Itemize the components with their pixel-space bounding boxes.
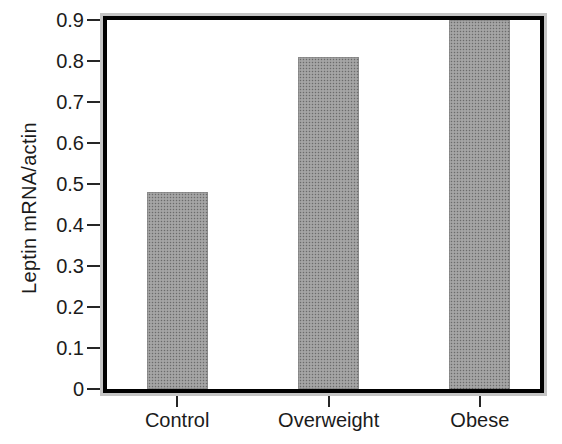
plot-area <box>107 20 540 389</box>
y-tick-label: 0.3 <box>38 256 84 276</box>
x-tick-mark <box>176 396 178 407</box>
y-tick-mark <box>87 60 100 62</box>
y-tick-label: 0.1 <box>38 338 84 358</box>
leptin-bar-chart: Leptin mRNA/actin 00.10.20.30.40.50.60.7… <box>0 0 562 444</box>
plot-frame <box>100 13 547 396</box>
y-tick-mark <box>87 347 100 349</box>
y-tick-label: 0.5 <box>38 174 84 194</box>
x-tick-mark <box>479 396 481 407</box>
y-tick-label: 0.9 <box>38 10 84 30</box>
y-tick-mark <box>87 183 100 185</box>
y-tick-mark <box>87 19 100 21</box>
bar-obese <box>449 20 510 389</box>
x-category-label: Control <box>145 410 209 430</box>
y-tick-label: 0.6 <box>38 133 84 153</box>
x-tick-mark <box>328 396 330 407</box>
plot-frame-inner <box>103 16 544 393</box>
y-tick-label: 0.7 <box>38 92 84 112</box>
bar-overweight <box>298 57 359 389</box>
x-category-label: Obese <box>450 410 509 430</box>
x-category-label: Overweight <box>278 410 379 430</box>
bar-control <box>147 192 208 389</box>
y-tick-mark <box>87 265 100 267</box>
y-tick-label: 0 <box>38 379 84 399</box>
y-tick-label: 0.8 <box>38 51 84 71</box>
y-tick-mark <box>87 101 100 103</box>
y-tick-mark <box>87 224 100 226</box>
y-tick-mark <box>87 142 100 144</box>
y-tick-label: 0.2 <box>38 297 84 317</box>
y-tick-label: 0.4 <box>38 215 84 235</box>
y-tick-mark <box>87 388 100 390</box>
y-tick-mark <box>87 306 100 308</box>
